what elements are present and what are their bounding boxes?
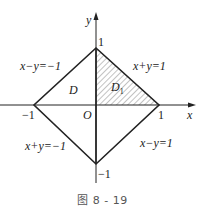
y-axis-label: y [85, 13, 92, 27]
tick-x-pos: 1 [158, 108, 164, 122]
region-label-d: D [68, 83, 78, 97]
square-region-diagram: y x O 1 1 −1 −1 x−y=−1 x+y=1 x+y=−1 x−y=… [0, 0, 205, 214]
x-axis-arrow-icon [188, 103, 196, 108]
origin-label: O [83, 108, 92, 122]
x-axis-label: x [186, 108, 193, 122]
edge-label-lower-left: x+y=−1 [24, 139, 66, 153]
tick-x-neg: −1 [22, 108, 35, 122]
edge-label-upper-left: x−y=−1 [19, 59, 61, 73]
figure-caption: 图 8 - 19 [0, 191, 205, 207]
tick-y-neg: −1 [98, 167, 111, 181]
edge-label-lower-right: x−y=1 [139, 136, 173, 150]
tick-y-pos: 1 [98, 35, 104, 49]
edge-label-upper-right: x+y=1 [132, 59, 166, 73]
y-axis-arrow-icon [94, 12, 99, 20]
